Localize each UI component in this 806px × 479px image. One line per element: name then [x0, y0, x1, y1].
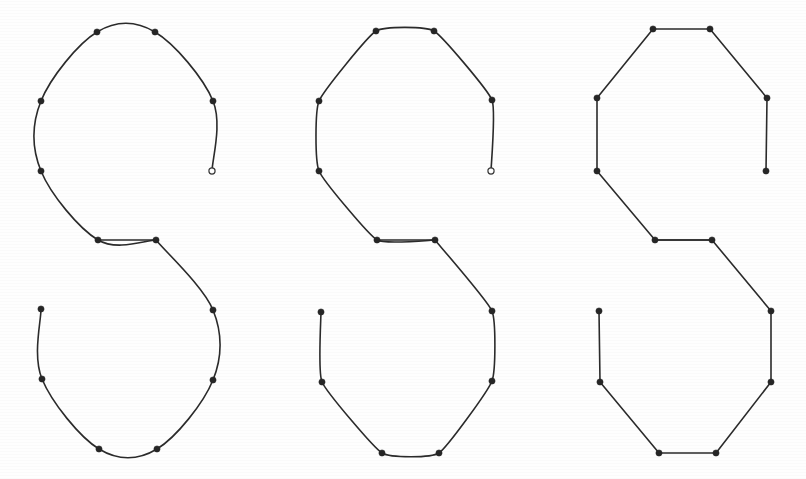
vertex-dot [153, 237, 159, 243]
vertex-dot [210, 307, 216, 313]
vertex-dot [316, 168, 322, 174]
subdivision-figure-svg [0, 0, 806, 479]
vertex-dot [152, 29, 158, 35]
vertex-dot [38, 168, 44, 174]
vertex-dot [652, 237, 658, 243]
vertex-dot [763, 168, 769, 174]
vertex-dot [713, 450, 719, 456]
vertex-dot [489, 308, 495, 314]
vertex-dot [489, 97, 495, 103]
vertex-dot [768, 308, 774, 314]
vertex-dot [596, 308, 602, 314]
figure-canvas [0, 0, 806, 479]
vertex-dot [96, 446, 102, 452]
vertex-dot [768, 379, 774, 385]
vertex-dot [597, 379, 603, 385]
vertex-dot [154, 446, 160, 452]
vertex-dot [656, 450, 662, 456]
vertex-dot [650, 26, 656, 32]
vertex-dot [436, 450, 442, 456]
vertex-dot [38, 98, 44, 104]
vertex-dot [374, 237, 380, 243]
vertex-dot [594, 95, 600, 101]
vertex-dot [488, 168, 494, 174]
vertex-dot [764, 95, 770, 101]
vertex-dot [318, 309, 324, 315]
vertex-dot [709, 237, 715, 243]
vertex-dot [379, 450, 385, 456]
vertex-dot [431, 28, 437, 34]
vertex-dot [95, 237, 101, 243]
vertex-dot [209, 168, 215, 174]
vertex-dot [39, 376, 45, 382]
vertex-dot [316, 98, 322, 104]
vertex-dot [210, 98, 216, 104]
vertex-dot [707, 26, 713, 32]
vertex-dot [594, 168, 600, 174]
vertex-dot [432, 237, 438, 243]
vertex-dot [319, 379, 325, 385]
vertex-dot [94, 29, 100, 35]
vertex-dot [489, 378, 495, 384]
vertex-dot [373, 28, 379, 34]
vertex-dot [210, 377, 216, 383]
vertex-dot [38, 306, 44, 312]
